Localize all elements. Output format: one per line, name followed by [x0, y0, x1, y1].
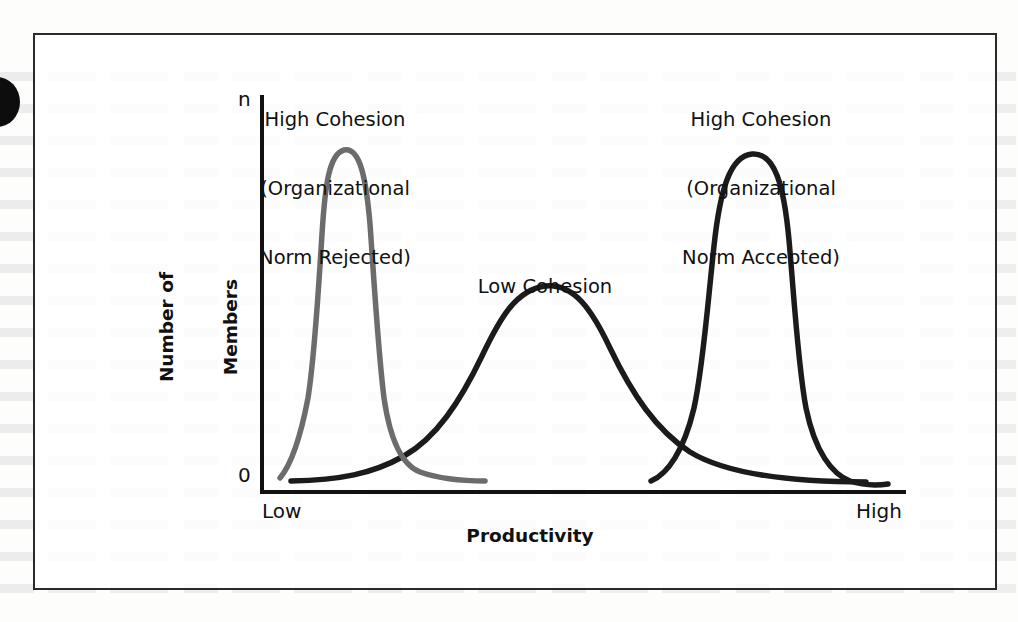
- annotation-line-2: (Organizational: [632, 177, 890, 200]
- annotation-low-cohesion: Low Cohesion: [432, 229, 658, 321]
- y-axis-tick-label-bottom: 0: [238, 464, 251, 488]
- x-axis-title: Productivity: [430, 525, 630, 547]
- y-axis-tick-label-top: n: [238, 88, 251, 112]
- y-axis-title: Number of Members: [113, 227, 263, 427]
- annotation-line-1: Low Cohesion: [432, 275, 658, 298]
- annotation-line-3: Norm Accepted): [632, 246, 890, 269]
- x-axis-tick-label-right: High: [856, 500, 902, 524]
- annotation-high-cohesion-accepted: High Cohesion (Organizational Norm Accep…: [632, 62, 890, 292]
- y-axis-title-line-1: Number of: [156, 227, 177, 427]
- y-axis-title-line-2: Members: [220, 227, 241, 427]
- annotation-line-1: High Cohesion: [632, 108, 890, 131]
- x-axis-tick-label-left: Low: [262, 500, 301, 524]
- annotation-line-2: (Organizational: [206, 177, 464, 200]
